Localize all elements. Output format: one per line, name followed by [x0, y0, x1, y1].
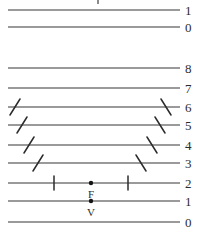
row-label: 6: [185, 101, 192, 114]
line-diagram: 10876543210FV: [0, 0, 197, 234]
point-marker: [89, 181, 93, 185]
row-label: 2: [185, 177, 192, 190]
row-label: 3: [185, 157, 192, 170]
top-clipped-mark: [97, 0, 99, 4]
point-label: F: [81, 189, 101, 200]
row-label: 8: [185, 62, 192, 75]
row-label: 7: [185, 82, 192, 95]
row-label: 1: [185, 195, 192, 208]
row-label: 5: [185, 119, 192, 132]
row-label: 0: [185, 216, 192, 229]
row-label: 4: [185, 139, 192, 152]
row-label: 0: [185, 21, 192, 34]
point-label: V: [81, 207, 101, 218]
row-label: 1: [185, 4, 192, 17]
